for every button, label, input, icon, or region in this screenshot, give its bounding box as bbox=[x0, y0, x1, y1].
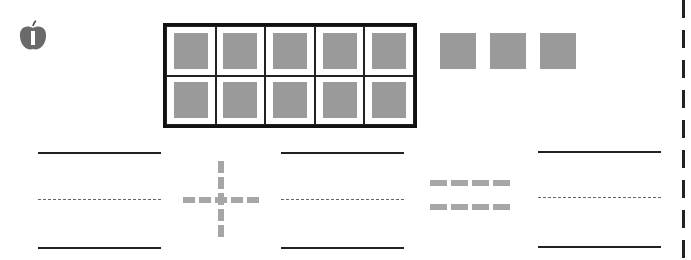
counter bbox=[323, 33, 357, 69]
counter bbox=[174, 33, 208, 69]
ten-frame-cell bbox=[265, 26, 315, 76]
extra-counter bbox=[440, 33, 476, 69]
counter bbox=[372, 33, 406, 69]
answer-blank-3-mid-line bbox=[538, 197, 661, 198]
ten-frame-cell bbox=[265, 76, 315, 126]
answer-blank-1-bottom-line[interactable] bbox=[38, 247, 161, 249]
counter bbox=[323, 82, 357, 118]
ten-frame-cell bbox=[315, 26, 365, 76]
extra-counter bbox=[540, 33, 576, 69]
counter bbox=[223, 33, 257, 69]
ten-frame-cell bbox=[364, 26, 414, 76]
counter bbox=[174, 82, 208, 118]
ten-frame-cell bbox=[315, 76, 365, 126]
ten-frame-cell bbox=[216, 26, 266, 76]
counter bbox=[273, 82, 307, 118]
answer-blank-3-bottom-line[interactable] bbox=[538, 246, 661, 248]
answer-blank-2-top-line bbox=[281, 152, 404, 154]
equals-sign-icon-bar bbox=[430, 204, 510, 210]
ten-frame-cell bbox=[364, 76, 414, 126]
equals-sign-icon bbox=[430, 180, 510, 186]
extra-counter bbox=[490, 33, 526, 69]
ten-frame-cell bbox=[166, 26, 216, 76]
ten-frame-cell bbox=[166, 76, 216, 126]
counter bbox=[223, 82, 257, 118]
answer-blank-2-bottom-line[interactable] bbox=[281, 247, 404, 249]
answer-blank-3-top-line bbox=[538, 151, 661, 153]
ten-frame-cell bbox=[216, 76, 266, 126]
cut-line bbox=[682, 0, 685, 260]
apple-icon bbox=[18, 20, 48, 52]
plus-sign-icon-bar bbox=[183, 197, 259, 203]
counter bbox=[372, 82, 406, 118]
answer-blank-1-mid-line bbox=[38, 199, 161, 200]
answer-blank-1-top-line bbox=[38, 152, 161, 154]
counter bbox=[273, 33, 307, 69]
ten-frame bbox=[163, 23, 417, 128]
answer-blank-2-mid-line bbox=[281, 199, 404, 200]
